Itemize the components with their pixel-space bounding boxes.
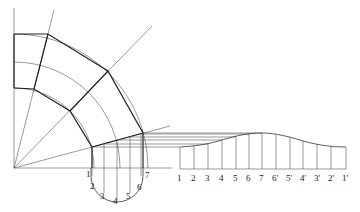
svg-text:6: 6	[137, 182, 142, 192]
svg-text:3': 3'	[314, 173, 321, 183]
svg-text:2: 2	[90, 181, 95, 191]
half-circle-labels: 1 2 3 4 5 6 7	[86, 169, 150, 206]
svg-text:1: 1	[177, 173, 182, 183]
svg-text:4: 4	[219, 173, 224, 183]
svg-text:5': 5'	[286, 173, 293, 183]
development-verticals	[180, 133, 346, 169]
joint-1	[34, 34, 48, 89]
joint-2	[70, 71, 108, 111]
svg-text:1': 1'	[342, 173, 349, 183]
svg-text:4': 4'	[300, 173, 307, 183]
svg-text:5: 5	[126, 191, 131, 201]
development-labels: 1 2 3 4 5 6 7 6' 5' 4' 3' 2' 1'	[177, 173, 349, 183]
svg-text:4: 4	[113, 196, 118, 206]
svg-text:3: 3	[100, 191, 105, 201]
elbow-drawing: 1 2 3 4 5 6 7 1 2 3 4 5 6 7 6' 5' 4' 3' …	[0, 0, 360, 212]
svg-text:5: 5	[233, 173, 238, 183]
svg-text:7: 7	[145, 170, 150, 180]
svg-text:6: 6	[246, 173, 251, 183]
svg-text:2: 2	[191, 173, 196, 183]
svg-text:6': 6'	[272, 173, 279, 183]
svg-text:2': 2'	[328, 173, 335, 183]
svg-text:1: 1	[86, 169, 91, 179]
svg-text:7: 7	[259, 173, 264, 183]
svg-text:3: 3	[205, 173, 210, 183]
